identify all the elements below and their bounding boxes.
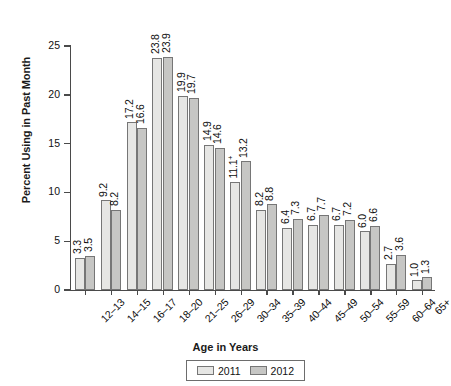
y-tick-mark — [64, 45, 70, 46]
plot-area: 3.33.59.28.217.216.623.823.919.919.714.9… — [71, 46, 434, 290]
y-tick-mark — [64, 94, 70, 95]
bar-2011-18–20 — [152, 58, 162, 290]
x-tick-label: 65+ — [432, 296, 451, 317]
bar-value-label: 8.2 — [108, 192, 120, 206]
bar-group: 2.73.6 — [386, 46, 407, 290]
bar-2012-40–44 — [293, 219, 303, 290]
x-axis-title: Age in Years — [0, 341, 451, 353]
bar-value-label: 7.7 — [315, 197, 327, 211]
y-tick-label: 5 — [40, 234, 60, 246]
bar-2011-45–49 — [308, 225, 318, 290]
bar-2012-16–17 — [137, 128, 147, 290]
x-tick-mark — [137, 290, 138, 295]
y-tick-label: 0 — [40, 283, 60, 295]
x-tick-label: 16–17 — [150, 296, 178, 324]
bar-2011-30–34 — [230, 182, 240, 290]
bar-2012-35–39 — [267, 204, 277, 290]
bar-group: 14.914.6 — [204, 46, 225, 290]
bar-group: 6.47.3 — [282, 46, 303, 290]
bar-2012-18–20 — [163, 57, 173, 290]
bar-2011-16–17 — [127, 122, 137, 290]
bar-2011-35–39 — [256, 210, 266, 290]
bar-2012-21–25 — [189, 98, 199, 290]
bar-2011-60–64 — [386, 264, 396, 290]
y-tick-mark — [64, 192, 70, 193]
bar-value-label: 11.1+ — [226, 155, 239, 178]
x-tick-label: 50–54 — [358, 296, 386, 324]
x-tick-label: 40–44 — [306, 296, 334, 324]
legend-swatch-2012 — [250, 366, 267, 375]
x-tick-mark — [344, 290, 345, 295]
x-tick-label: 18–20 — [176, 296, 204, 324]
y-tick-label: 10 — [40, 185, 60, 197]
bar-group: 17.216.6 — [127, 46, 148, 290]
bar-value-label: 23.9 — [160, 34, 172, 54]
bar-2012-60–64 — [396, 255, 406, 290]
bar-group: 1.01.3 — [412, 46, 433, 290]
x-tick-mark — [370, 290, 371, 295]
y-tick-mark — [64, 241, 70, 242]
bar-value-label: 1.3 — [419, 260, 431, 274]
bar-2011-55–59 — [360, 231, 370, 290]
bar-chart: Percent Using in Past Month 0510152025 3… — [0, 0, 451, 386]
x-tick-mark — [318, 290, 319, 295]
bar-2012-45–49 — [319, 215, 329, 290]
bar-group: 8.28.8 — [256, 46, 277, 290]
x-tick-label: 30–34 — [254, 296, 282, 324]
x-tick-mark — [396, 290, 397, 295]
bar-group: 6.06.6 — [360, 46, 381, 290]
bar-2012-30–34 — [241, 161, 251, 290]
bar-value-label: 7.2 — [341, 202, 353, 216]
bar-value-label: 3.5 — [82, 238, 94, 252]
bar-value-label: 3.6 — [393, 237, 405, 251]
x-tick-mark — [85, 290, 86, 295]
x-tick-mark — [215, 290, 216, 295]
bar-group: 19.919.7 — [178, 46, 199, 290]
bar-2011-65+ — [412, 280, 422, 290]
x-tick-mark — [266, 290, 267, 295]
bar-2011-40–44 — [282, 228, 292, 290]
bar-value-label: 7.3 — [289, 201, 301, 215]
x-tick-mark — [241, 290, 242, 295]
bar-group: 6.77.2 — [334, 46, 355, 290]
bar-2012-65+ — [422, 277, 432, 290]
bar-group: 11.1+13.2 — [230, 46, 251, 290]
legend-label-2011: 2011 — [218, 365, 241, 377]
bar-value-label: 19.7 — [185, 75, 197, 95]
x-tick-mark — [189, 290, 190, 295]
bar-value-label: 14.6 — [211, 124, 223, 144]
y-tick-label: 20 — [40, 88, 60, 100]
bar-group: 6.77.7 — [308, 46, 329, 290]
y-tick-label: 25 — [40, 39, 60, 51]
legend-swatch-2011 — [197, 366, 214, 375]
bar-2011-26–29 — [204, 145, 214, 290]
chart-legend: 2011 2012 — [186, 360, 305, 381]
x-tick-mark — [111, 290, 112, 295]
bar-2011-50–54 — [334, 225, 344, 290]
x-tick-label: 26–29 — [228, 296, 256, 324]
bar-2011-12–13 — [75, 258, 85, 290]
y-tick-mark — [64, 143, 70, 144]
x-tick-label: 45–49 — [332, 296, 360, 324]
bar-value-label: 13.2 — [237, 138, 249, 158]
legend-item-2011: 2011 — [197, 365, 241, 377]
bar-2012-55–59 — [370, 226, 380, 290]
bar-2012-12–13 — [85, 256, 95, 290]
y-tick-label: 15 — [40, 137, 60, 149]
bar-group: 23.823.9 — [152, 46, 173, 290]
bar-value-label: 8.8 — [263, 187, 275, 201]
x-tick-label: 21–25 — [202, 296, 230, 324]
x-tick-label: 12–13 — [98, 296, 126, 324]
bar-2012-14–15 — [111, 210, 121, 290]
x-tick-label: 55–59 — [383, 296, 411, 324]
bar-value-label: 6.6 — [367, 208, 379, 222]
x-tick-label: 35–39 — [280, 296, 308, 324]
bar-2011-14–15 — [101, 200, 111, 290]
bar-2012-50–54 — [345, 220, 355, 290]
legend-label-2012: 2012 — [271, 365, 294, 377]
y-tick-mark — [64, 289, 70, 290]
bar-value-label: 16.6 — [134, 105, 146, 125]
bar-group: 9.28.2 — [101, 46, 122, 290]
legend-item-2012: 2012 — [250, 365, 294, 377]
x-tick-mark — [163, 290, 164, 295]
